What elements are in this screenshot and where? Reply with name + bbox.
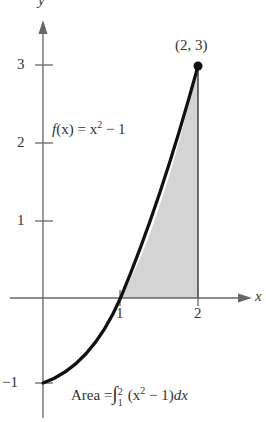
integral-lower: 1 (118, 397, 123, 408)
x-axis-label: x (255, 288, 262, 305)
integral-upper: 2 (118, 386, 123, 397)
x-tick-label-2: 2 (194, 305, 202, 322)
area-formula: Area =∫21(x2 − 1)dx (71, 382, 188, 408)
y-tick-label-neg1: −1 (2, 374, 18, 391)
shaded-area-top (121, 66, 199, 298)
graph-canvas (0, 0, 266, 422)
y-tick-label-1: 1 (17, 212, 25, 229)
point-2-3 (194, 62, 203, 71)
differential: dx (174, 387, 188, 403)
y-tick-label-2: 2 (17, 134, 25, 151)
point-label: (2, 3) (175, 37, 208, 54)
x-tick-label-1: 1 (116, 305, 124, 322)
y-axis-arrow-icon (39, 20, 48, 34)
function-label: f(x) = x2 − 1 (52, 119, 126, 138)
function-eq: = x (74, 121, 97, 137)
integrand-tail: − 1) (145, 387, 173, 403)
function-rest: − 1 (102, 121, 125, 137)
x-axis-arrow-icon (238, 294, 252, 303)
y-axis-label: y (38, 0, 45, 9)
integrand-open: (x (128, 387, 141, 403)
function-arg: (x) (56, 121, 74, 137)
area-prefix: Area = (71, 387, 112, 403)
y-tick-label-3: 3 (17, 56, 25, 73)
